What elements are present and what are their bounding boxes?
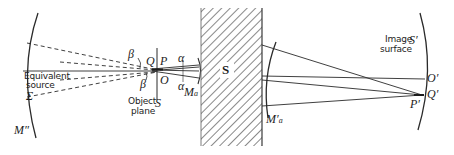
beta-bottom-label: β	[140, 78, 146, 90]
mirror-m-a-prime	[266, 42, 276, 118]
system-s-label: S	[222, 63, 229, 76]
object-plane-label-2: plane	[131, 107, 155, 116]
s-prime-label: S′	[409, 34, 418, 46]
p-prime-label: P′	[410, 98, 420, 110]
image-surface-label-2: surface	[380, 45, 412, 54]
m-a-label: Ma	[184, 86, 198, 98]
s-plane-label: S	[155, 97, 161, 109]
object-plane-label-1: Object	[128, 97, 156, 106]
o-label: O	[160, 74, 169, 86]
alpha-top-label: α	[178, 52, 184, 64]
m-double-prime-label: M″	[14, 124, 29, 136]
o-prime-label: O′	[427, 72, 438, 84]
optical-diagram: Equivalent source Σ M″ β β Q P O Object …	[0, 0, 454, 155]
sigma-label: Σ	[26, 90, 33, 102]
q-label: Q	[146, 55, 155, 67]
m-a-prime-label: M′a	[266, 113, 283, 125]
p-label: P	[160, 55, 167, 67]
image-rays	[262, 45, 425, 106]
q-prime-label: Q′	[427, 88, 438, 100]
beta-top-label: β	[128, 48, 134, 60]
